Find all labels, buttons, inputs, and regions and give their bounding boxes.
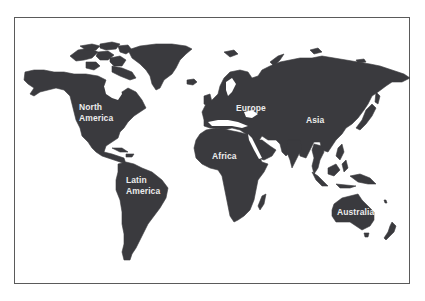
arctic-island-east (310, 48, 322, 54)
label-asia-line1: Asia (306, 115, 324, 126)
label-africa: Africa (212, 151, 237, 162)
label-australia: Australia (337, 207, 374, 218)
label-north-america: North America (79, 102, 113, 124)
label-latin-america-line1: Latin (126, 175, 160, 186)
arctic-island-far-east (356, 59, 366, 63)
sakhalin (375, 92, 380, 104)
new-zealand (384, 222, 396, 240)
label-africa-line1: Africa (212, 151, 237, 162)
label-latin-america: Latin America (126, 175, 160, 197)
pacific-islet (384, 200, 387, 203)
label-australia-line1: Australia (337, 207, 374, 218)
label-north-america-line2: America (79, 113, 113, 124)
tasmania (364, 233, 369, 237)
southeast-asia-peninsula (312, 144, 324, 174)
greenland (128, 44, 192, 90)
label-asia: Asia (306, 115, 324, 126)
svalbard (224, 50, 238, 57)
madagascar (258, 194, 266, 210)
label-europe: Europe (236, 103, 266, 114)
label-europe-line1: Europe (236, 103, 266, 114)
iceland (187, 79, 197, 85)
label-latin-america-line2: America (126, 186, 160, 197)
label-north-america-line1: North (79, 102, 113, 113)
